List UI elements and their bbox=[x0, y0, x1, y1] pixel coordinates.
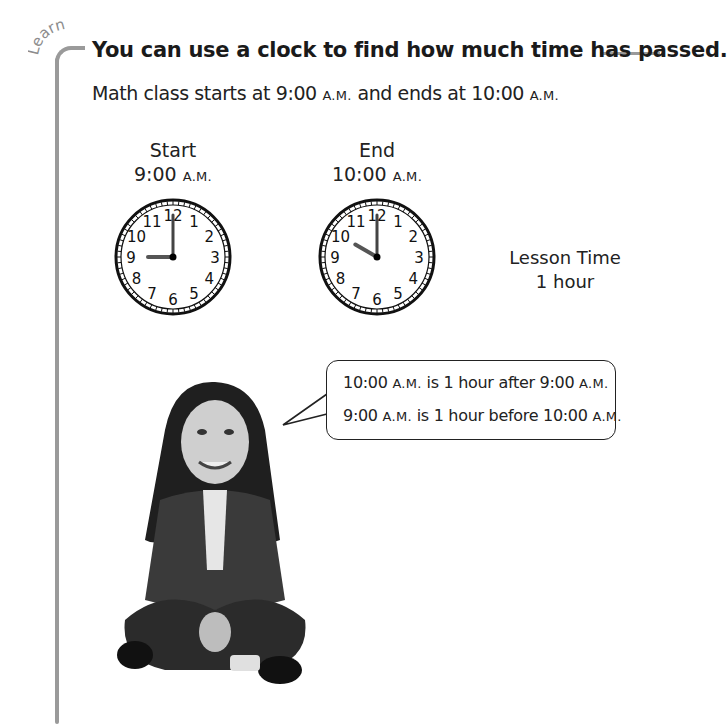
start-clock-block: Start 9:00 A.M. 121234567891011 bbox=[103, 138, 243, 317]
end-label: End bbox=[307, 138, 447, 162]
svg-text:10: 10 bbox=[127, 228, 146, 246]
svg-text:10: 10 bbox=[331, 228, 350, 246]
lesson-time-label: Lesson Time bbox=[490, 246, 640, 270]
lesson-time-value: 1 hour bbox=[490, 270, 640, 294]
lesson-title: You can use a clock to find how much tim… bbox=[92, 38, 727, 62]
start-time: 9:00 A.M. bbox=[103, 162, 243, 189]
svg-text:8: 8 bbox=[132, 270, 142, 288]
svg-text:11: 11 bbox=[346, 213, 365, 231]
learn-bracket-corner bbox=[55, 46, 85, 66]
svg-text:9: 9 bbox=[330, 249, 340, 267]
svg-text:6: 6 bbox=[168, 291, 178, 309]
lesson-time: Lesson Time 1 hour bbox=[490, 246, 640, 294]
bubble-line-2: 9:00 A.M. is 1 hour before 10:00 A.M. bbox=[343, 406, 622, 425]
learn-bracket-line bbox=[55, 58, 59, 724]
svg-text:7: 7 bbox=[147, 285, 157, 303]
end-clock-face: 121234567891011 bbox=[317, 197, 437, 317]
speech-bubble-tail bbox=[280, 380, 330, 430]
end-time: 10:00 A.M. bbox=[307, 162, 447, 189]
svg-text:7: 7 bbox=[351, 285, 361, 303]
svg-text:1: 1 bbox=[189, 213, 199, 231]
speech-bubble: 10:00 A.M. is 1 hour after 9:00 A.M. 9:0… bbox=[326, 360, 616, 440]
start-clock-face: 121234567891011 bbox=[113, 197, 233, 317]
svg-text:2: 2 bbox=[205, 228, 215, 246]
svg-text:6: 6 bbox=[372, 291, 382, 309]
svg-text:2: 2 bbox=[409, 228, 419, 246]
bubble-line-1: 10:00 A.M. is 1 hour after 9:00 A.M. bbox=[343, 373, 608, 392]
end-clock-block: End 10:00 A.M. 121234567891011 bbox=[307, 138, 447, 317]
start-label: Start bbox=[103, 138, 243, 162]
svg-text:4: 4 bbox=[205, 270, 215, 288]
svg-text:11: 11 bbox=[142, 213, 161, 231]
svg-text:4: 4 bbox=[409, 270, 419, 288]
svg-text:5: 5 bbox=[393, 285, 403, 303]
svg-text:1: 1 bbox=[393, 213, 403, 231]
svg-text:3: 3 bbox=[414, 249, 424, 267]
svg-text:5: 5 bbox=[189, 285, 199, 303]
svg-text:9: 9 bbox=[126, 249, 136, 267]
intro-sentence: Math class starts at 9:00 A.M. and ends … bbox=[92, 82, 559, 104]
svg-text:3: 3 bbox=[210, 249, 220, 267]
svg-text:8: 8 bbox=[336, 270, 346, 288]
